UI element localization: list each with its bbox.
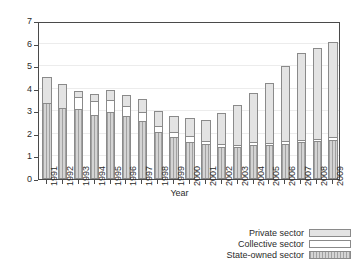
chart-figure: No. of people in million 01234567 199119… <box>0 0 359 269</box>
legend-label: Collective sector <box>238 239 304 249</box>
legend-item[interactable]: Private sector <box>249 228 351 238</box>
bar-segment-private[interactable] <box>185 118 194 137</box>
bar-segment-private[interactable] <box>297 53 306 141</box>
x-tick-label: 2009 <box>336 166 345 186</box>
x-tick-mark <box>332 180 333 184</box>
y-tick-label: 6 <box>14 40 32 49</box>
y-tick-label: 1 <box>14 152 32 161</box>
x-tick-mark <box>157 180 158 184</box>
legend-swatch <box>309 251 351 259</box>
y-tick-label: 5 <box>14 62 32 71</box>
x-tick-label: 1998 <box>161 166 170 186</box>
x-tick-label: 1994 <box>98 166 107 186</box>
x-tick-mark <box>253 180 254 184</box>
bar-group[interactable] <box>265 83 274 179</box>
x-tick-mark <box>205 180 206 184</box>
bar-segment-private[interactable] <box>265 83 274 144</box>
x-tick-mark <box>300 180 301 184</box>
x-tick-label: 2007 <box>304 166 313 186</box>
bar-segment-private[interactable] <box>281 66 290 142</box>
bar-group[interactable] <box>58 84 67 179</box>
x-tick-mark <box>237 180 238 184</box>
bar-segment-private[interactable] <box>249 93 258 144</box>
x-tick-mark <box>268 180 269 184</box>
y-tick-label: 2 <box>14 130 32 139</box>
bar-segment-collective[interactable] <box>90 101 99 116</box>
plot-area <box>38 22 340 180</box>
legend-item[interactable]: Collective sector <box>238 239 351 249</box>
bar-segment-private[interactable] <box>154 111 163 127</box>
x-tick-mark <box>46 180 47 184</box>
x-tick-label: 2000 <box>193 166 202 186</box>
legend-label: Private sector <box>249 228 304 238</box>
x-axis-title: Year <box>0 188 359 198</box>
bar-group[interactable] <box>281 66 290 179</box>
legend-swatch <box>309 240 351 248</box>
x-tick-mark <box>94 180 95 184</box>
x-tick-mark <box>173 180 174 184</box>
x-tick-label: 1991 <box>50 166 59 186</box>
x-tick-mark <box>316 180 317 184</box>
y-tick-label: 4 <box>14 85 32 94</box>
chart-legend: Private sectorCollective sectorState-own… <box>0 228 351 260</box>
legend-label: State-owned sector <box>226 250 304 260</box>
x-tick-mark <box>62 180 63 184</box>
x-tick-mark <box>284 180 285 184</box>
x-tick-mark <box>125 180 126 184</box>
bar-segment-private[interactable] <box>313 48 322 141</box>
y-tick-label: 3 <box>14 107 32 116</box>
bar-group[interactable] <box>313 48 322 179</box>
bar-segment-private[interactable] <box>217 113 226 144</box>
bar-segment-private[interactable] <box>138 99 147 113</box>
bar-segment-private[interactable] <box>233 105 242 145</box>
x-tick-label: 2008 <box>320 166 329 186</box>
legend-item[interactable]: State-owned sector <box>226 250 351 260</box>
x-tick-label: 1992 <box>66 166 75 186</box>
bar-segment-private[interactable] <box>42 77 51 105</box>
bar-segment-private[interactable] <box>328 42 337 138</box>
x-tick-label: 1999 <box>177 166 186 186</box>
x-tick-mark <box>110 180 111 184</box>
bar-group[interactable] <box>297 53 306 179</box>
bar-segment-collective[interactable] <box>106 100 115 113</box>
y-tick-label: 0 <box>14 175 32 184</box>
bar-segment-collective[interactable] <box>74 97 83 111</box>
y-tick-label: 7 <box>14 17 32 26</box>
bar-series-container <box>39 23 339 179</box>
x-tick-label: 2006 <box>288 166 297 186</box>
x-tick-label: 1996 <box>129 166 138 186</box>
bar-segment-private[interactable] <box>169 116 178 133</box>
x-tick-mark <box>141 180 142 184</box>
bar-group[interactable] <box>42 77 51 179</box>
bar-segment-private[interactable] <box>201 120 210 142</box>
x-tick-label: 2002 <box>225 166 234 186</box>
x-tick-label: 2003 <box>241 166 250 186</box>
bar-group[interactable] <box>328 42 337 179</box>
y-tick-mark <box>34 180 38 181</box>
x-tick-label: 1997 <box>145 166 154 186</box>
x-tick-label: 2001 <box>209 166 218 186</box>
x-tick-label: 1995 <box>114 166 123 186</box>
x-tick-label: 2005 <box>272 166 281 186</box>
x-tick-label: 1993 <box>82 166 91 186</box>
x-tick-mark <box>189 180 190 184</box>
x-tick-label: 2004 <box>257 166 266 186</box>
bar-segment-private[interactable] <box>58 84 67 110</box>
x-tick-mark <box>78 180 79 184</box>
legend-swatch <box>309 229 351 237</box>
x-tick-mark <box>221 180 222 184</box>
